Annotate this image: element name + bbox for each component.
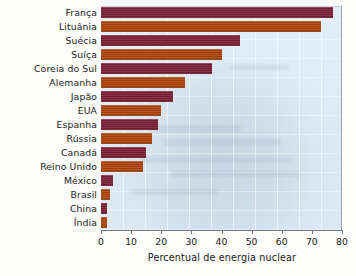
x-axis-tick-label: 0 [98,236,104,247]
bar-track [101,76,342,90]
bar-row: Canadá [0,146,356,160]
bar-category-label: China [0,204,101,213]
bar-track [101,104,342,118]
bar [101,49,222,60]
x-axis-tick [342,230,343,234]
bar-track [101,48,342,62]
bar [101,35,240,46]
bar-category-label: Suíça [0,50,101,59]
x-axis: 01020304050607080 [101,230,342,231]
bar [101,189,110,200]
bar-row: Reino Unido [0,160,356,174]
bar-row: Japão [0,90,356,104]
bar-track [101,6,342,20]
bar-scanline-overlay [101,77,185,88]
bar-track [101,146,342,160]
bar-category-label: México [0,176,101,185]
bar-row: Rússia [0,132,356,146]
bar-track [101,132,342,146]
x-axis-tick-label: 60 [276,236,288,247]
bar-category-label: Canadá [0,148,101,157]
bar [101,161,143,172]
bar-scanline-overlay [101,63,212,74]
bar-row: Suíça [0,48,356,62]
x-axis-tick [161,230,162,234]
x-axis-title-text: Percentual de energia nuclear [148,252,296,263]
bar-scanline-overlay [101,119,158,130]
bar-track [101,20,342,34]
bar-category-label: EUA [0,106,101,115]
bar-category-label: Japão [0,92,101,101]
bar [101,77,185,88]
bar [101,7,333,18]
x-axis-tick [312,230,313,234]
bar-chart-figure: FrançaLituâniaSuéciaSuíçaCoreia do SulAl… [0,0,356,276]
bar-row: Lituânia [0,20,356,34]
bar-row: EUA [0,104,356,118]
bar-scanline-overlay [101,7,333,18]
bar [101,217,107,228]
x-axis-tick [282,230,283,234]
bar-scanline-overlay [101,21,321,32]
bar-scanline-overlay [101,161,143,172]
bar [101,63,212,74]
bar-scanline-overlay [101,175,113,186]
bar [101,119,158,130]
x-axis-tick [252,230,253,234]
x-axis-tick-label: 40 [216,236,228,247]
x-axis-tick-label: 20 [155,236,167,247]
x-axis-tick-label: 50 [246,236,258,247]
bar [101,203,107,214]
bar-row: Coreia do Sul [0,62,356,76]
x-axis-tick [101,230,102,234]
bar-scanline-overlay [101,35,240,46]
x-axis-tick-label: 70 [306,236,318,247]
bar-scanline-overlay [101,203,107,214]
bar-rows: FrançaLituâniaSuéciaSuíçaCoreia do SulAl… [0,6,356,230]
bar-track [101,174,342,188]
bar-track [101,160,342,174]
bar-scanline-overlay [101,217,107,228]
x-axis-tick-label: 10 [125,236,137,247]
bar-scanline-overlay [101,49,222,60]
bar-scanline-overlay [101,105,161,116]
bar-category-label: Espanha [0,120,101,129]
bar-category-label: Coreia do Sul [0,64,101,73]
bar [101,175,113,186]
bar-scanline-overlay [101,91,173,102]
bar-track [101,188,342,202]
bar-category-label: Rússia [0,134,101,143]
bar-row: França [0,6,356,20]
bar-category-label: Reino Unido [0,162,101,171]
bar-row: China [0,202,356,216]
bar-track [101,90,342,104]
bar [101,91,173,102]
bar-row: Brasil [0,188,356,202]
x-axis-tick [131,230,132,234]
x-axis-tick-label: 30 [185,236,197,247]
bar-row: Suécia [0,34,356,48]
bar-scanline-overlay [101,133,152,144]
bar-category-label: Brasil [0,190,101,199]
bar [101,105,161,116]
bar [101,147,146,158]
bar [101,133,152,144]
bar-track [101,202,342,216]
x-axis-tick-label: 80 [336,236,348,247]
bar-category-label: Alemanha [0,78,101,87]
bar-row: México [0,174,356,188]
x-axis-tick [191,230,192,234]
x-axis-tick [222,230,223,234]
bar-row: Espanha [0,118,356,132]
bar-track [101,34,342,48]
bar-row: Alemanha [0,76,356,90]
bar-category-label: Suécia [0,36,101,45]
bar-track [101,216,342,230]
bar [101,21,321,32]
bar-scanline-overlay [101,147,146,158]
bar-track [101,118,342,132]
bar-scanline-overlay [101,189,110,200]
bar-category-label: Lituânia [0,22,101,31]
bar-track [101,62,342,76]
bar-row: Índia [0,216,356,230]
